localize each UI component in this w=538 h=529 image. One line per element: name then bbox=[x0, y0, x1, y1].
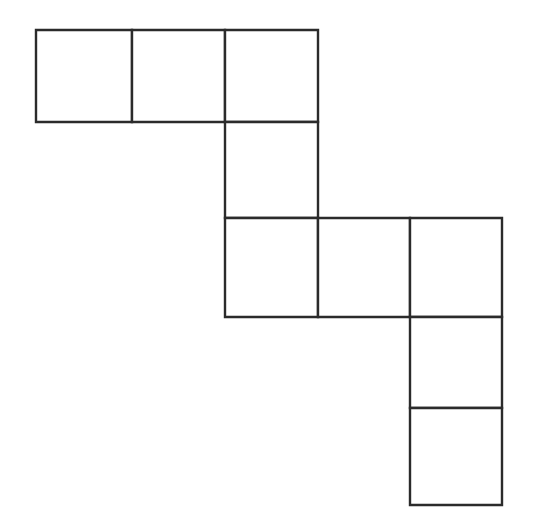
polyomino-diagram bbox=[0, 0, 538, 529]
grid-cell-r2c4 bbox=[410, 218, 502, 317]
grid-cell-r0c2 bbox=[225, 30, 318, 122]
grid-cell-r3c4 bbox=[410, 317, 502, 408]
figure-canvas: Polyomino staircase grid figure bbox=[0, 0, 538, 529]
grid-cell-r0c0 bbox=[36, 30, 132, 122]
grid-cell-r2c2 bbox=[225, 218, 318, 317]
grid-cell-r2c3 bbox=[318, 218, 410, 317]
grid-cell-r1c2 bbox=[225, 122, 318, 218]
grid-cell-r0c1 bbox=[132, 30, 225, 122]
grid-cell-r4c4 bbox=[410, 408, 502, 505]
